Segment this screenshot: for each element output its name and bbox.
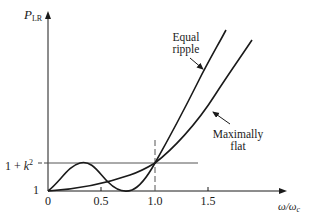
annotation-maximally-flat: Maximally flat	[208, 128, 268, 152]
x-tick-10: 1.0	[143, 195, 167, 208]
y-axis-label-main: P	[24, 7, 32, 22]
chart: PLR 1 1 + k2 0 0.5 1.0 1.5 ω/ωc Equal ri…	[0, 0, 312, 221]
annotation-equal-ripple: Equal ripple	[164, 31, 208, 55]
y-axis-label: PLR	[24, 8, 42, 25]
x-axis-label-sub: c	[297, 205, 301, 214]
x-tick-0: 0	[42, 195, 54, 208]
y-tick-1-text: 1	[33, 183, 39, 197]
maximally-flat-pointer	[213, 112, 230, 124]
y-tick-k-prefix: 1 +	[5, 159, 24, 173]
chart-plot	[0, 0, 312, 221]
y-tick-1: 1	[33, 184, 39, 197]
x-axis-arrow-icon	[279, 188, 287, 194]
x-tick-15-text: 1.5	[201, 194, 216, 208]
y-tick-k-sup: 2	[29, 158, 33, 167]
x-tick-0-text: 0	[45, 194, 51, 208]
annotation-equal-ripple-line1: Equal	[164, 31, 208, 43]
annotation-maximally-flat-line2: flat	[208, 140, 268, 152]
x-axis-label: ω/ωc	[278, 200, 300, 216]
annotation-maximally-flat-line1: Maximally	[208, 128, 268, 140]
x-tick-15: 1.5	[196, 195, 220, 208]
x-tick-05-text: 0.5	[94, 194, 109, 208]
y-tick-1-plus-k2: 1 + k2	[5, 156, 33, 173]
equal-ripple-pointer	[190, 58, 203, 69]
annotation-equal-ripple-line2: ripple	[164, 43, 208, 55]
y-axis-arrow-icon	[45, 11, 51, 19]
y-axis-label-sub: LR	[32, 14, 42, 23]
x-axis-label-main: ω/ω	[278, 200, 297, 212]
x-tick-10-text: 1.0	[148, 194, 163, 208]
x-tick-05: 0.5	[89, 195, 113, 208]
maximally-flat-curve	[48, 40, 252, 191]
